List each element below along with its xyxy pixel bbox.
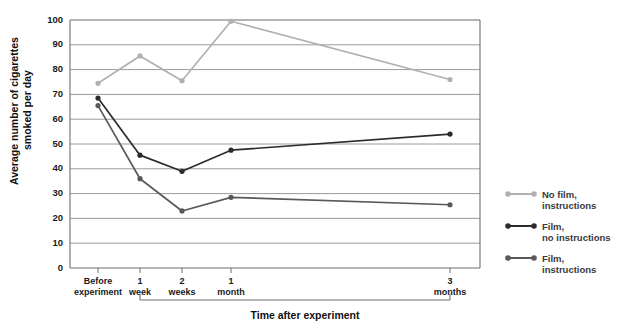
legend-swatch-dot-start-2 bbox=[505, 255, 511, 261]
data-point-s0-p4[interactable] bbox=[447, 77, 452, 82]
legend-swatch-dot-end-2 bbox=[531, 255, 537, 261]
series-line-0 bbox=[98, 21, 450, 83]
legend-label-2[interactable]: Film, bbox=[542, 253, 564, 264]
data-point-s0-p1[interactable] bbox=[137, 53, 142, 58]
legend-label-1[interactable]: no instructions bbox=[542, 232, 611, 243]
legend-swatch-dot-start-0 bbox=[505, 191, 511, 197]
gridlines-group bbox=[70, 20, 480, 243]
y-tick-labels-group: 0102030405060708090100 bbox=[47, 14, 63, 273]
data-point-s0-p2[interactable] bbox=[179, 78, 184, 83]
legend-swatch-dot-end-0 bbox=[531, 191, 537, 197]
y-tick-label: 70 bbox=[52, 88, 63, 99]
data-point-s0-p3[interactable] bbox=[228, 19, 233, 24]
x-tick-label-0: Before bbox=[84, 276, 113, 286]
x-tick-label-2: weeks bbox=[167, 287, 195, 297]
series-line-2 bbox=[98, 106, 450, 211]
y-tick-label: 0 bbox=[58, 262, 63, 273]
series-group bbox=[95, 19, 452, 214]
legend-label-0[interactable]: instructions bbox=[542, 200, 596, 211]
legend-label-1[interactable]: Film, bbox=[542, 221, 564, 232]
legend-swatch-dot-start-1 bbox=[505, 223, 511, 229]
y-tick-label: 40 bbox=[52, 162, 63, 173]
legend-group: No film,instructionsFilm,no instructions… bbox=[505, 189, 610, 275]
y-tick-label: 100 bbox=[47, 14, 63, 25]
y-tick-label: 60 bbox=[52, 113, 63, 124]
data-point-s2-p0[interactable] bbox=[95, 103, 100, 108]
x-tick-label-1: 1 bbox=[137, 276, 142, 286]
legend-swatch-dot-end-1 bbox=[531, 223, 537, 229]
y-tick-label: 80 bbox=[52, 63, 63, 74]
data-point-s1-p1[interactable] bbox=[137, 153, 142, 158]
y-axis-title-line1: Average number of cigarettes bbox=[8, 37, 20, 185]
y-tick-label: 50 bbox=[52, 138, 63, 149]
x-tick-labels-group: Beforeexperiment1week2weeks1month3months bbox=[74, 276, 466, 297]
data-point-s1-p0[interactable] bbox=[95, 96, 100, 101]
series-line-1 bbox=[98, 98, 450, 171]
data-point-s2-p2[interactable] bbox=[179, 208, 184, 213]
x-tick-label-4: 3 bbox=[447, 276, 452, 286]
y-tick-label: 20 bbox=[52, 212, 63, 223]
y-axis-title-line2: smoked per day bbox=[21, 70, 33, 150]
y-tick-label: 30 bbox=[52, 187, 63, 198]
data-point-s2-p1[interactable] bbox=[137, 176, 142, 181]
y-tick-label: 90 bbox=[52, 38, 63, 49]
chart-svg: 0102030405060708090100 Beforeexperiment1… bbox=[0, 0, 620, 329]
data-point-s0-p0[interactable] bbox=[95, 81, 100, 86]
legend-label-0[interactable]: No film, bbox=[542, 189, 577, 200]
line-chart: 0102030405060708090100 Beforeexperiment1… bbox=[0, 0, 620, 329]
data-point-s1-p3[interactable] bbox=[228, 148, 233, 153]
x-tick-label-3: 1 bbox=[228, 276, 233, 286]
data-point-s1-p2[interactable] bbox=[179, 169, 184, 174]
x-axis-title: Time after experiment bbox=[251, 309, 360, 321]
legend-label-2[interactable]: instructions bbox=[542, 264, 596, 275]
x-tick-label-0: experiment bbox=[74, 287, 122, 297]
x-tick-label-3: month bbox=[217, 287, 245, 297]
data-point-s2-p4[interactable] bbox=[447, 202, 452, 207]
data-point-s2-p3[interactable] bbox=[228, 195, 233, 200]
x-tick-label-2: 2 bbox=[179, 276, 184, 286]
data-point-s1-p4[interactable] bbox=[447, 131, 452, 136]
y-tick-label: 10 bbox=[52, 237, 63, 248]
